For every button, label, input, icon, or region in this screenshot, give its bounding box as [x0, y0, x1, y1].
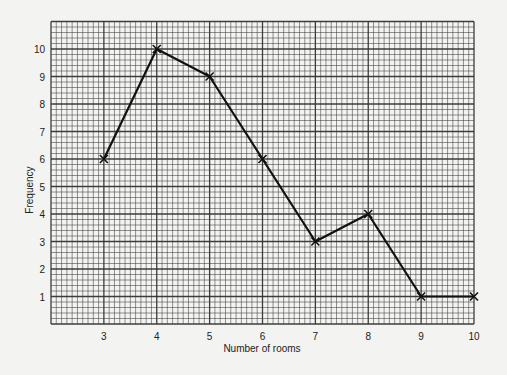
x-tick-label: 9: [418, 331, 424, 342]
y-axis-ticks: 12345678910: [34, 44, 46, 303]
x-tick-label: 5: [207, 331, 213, 342]
y-tick-label: 8: [39, 99, 45, 110]
y-tick-label: 1: [39, 292, 45, 303]
y-tick-label: 5: [39, 182, 45, 193]
x-tick-label: 4: [154, 331, 160, 342]
x-axis-label: Number of rooms: [223, 343, 300, 354]
y-axis-label: Frequency: [24, 166, 35, 213]
x-tick-label: 6: [260, 331, 266, 342]
y-tick-label: 6: [39, 154, 45, 165]
y-tick-label: 10: [34, 44, 46, 55]
y-tick-label: 4: [39, 209, 45, 220]
x-tick-label: 8: [365, 331, 371, 342]
x-tick-label: 7: [313, 331, 319, 342]
y-tick-label: 2: [39, 264, 45, 275]
x-tick-label: 3: [101, 331, 107, 342]
y-tick-label: 7: [39, 127, 45, 138]
x-tick-label: 10: [468, 331, 480, 342]
y-tick-label: 3: [39, 237, 45, 248]
x-axis-ticks: 345678910: [101, 331, 480, 342]
y-tick-label: 9: [39, 72, 45, 83]
frequency-polygon-chart: 345678910 12345678910 Number of rooms Fr…: [0, 0, 507, 375]
